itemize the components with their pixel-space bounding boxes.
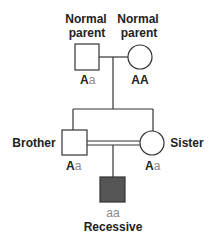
brother-label: Brother bbox=[12, 136, 56, 150]
mother-label-line1: Normal bbox=[117, 12, 158, 26]
mother-symbol bbox=[128, 45, 152, 69]
child-genotype: aa bbox=[106, 206, 120, 220]
sister-label: Sister bbox=[170, 136, 204, 150]
father-label-line2: parent bbox=[69, 26, 106, 40]
child-label: Recessive bbox=[84, 220, 143, 234]
sister-symbol bbox=[140, 131, 164, 155]
mother-label-line2: parent bbox=[121, 26, 158, 40]
father-genotype: Aa bbox=[80, 73, 96, 87]
brother-symbol bbox=[62, 130, 87, 155]
sister-genotype: Aa bbox=[145, 159, 161, 173]
mother-genotype: AA bbox=[131, 73, 149, 87]
father-symbol bbox=[75, 44, 99, 70]
pedigree-diagram: Normal parent Normal parent Aa AA Brothe… bbox=[0, 0, 216, 244]
father-label-line1: Normal bbox=[65, 12, 106, 26]
affected-child-symbol bbox=[100, 177, 125, 202]
brother-genotype: Aa bbox=[66, 159, 82, 173]
